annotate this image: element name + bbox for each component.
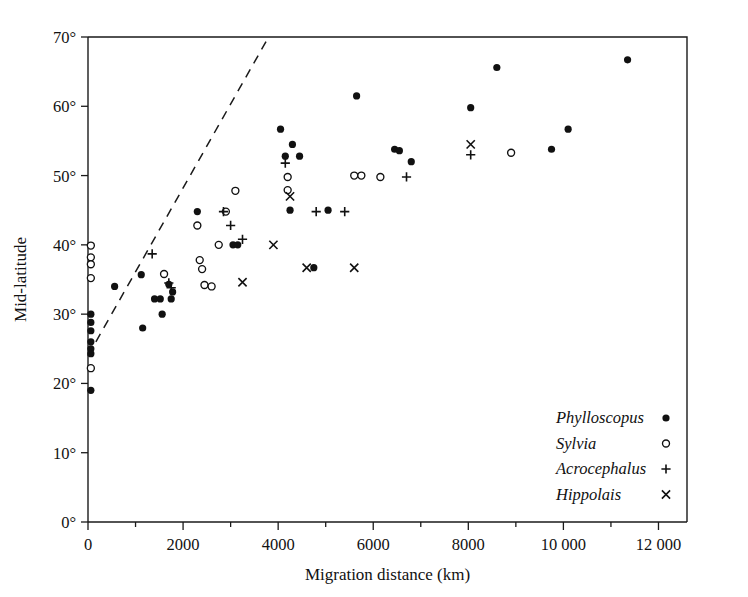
y-tick-label: 60°: [53, 97, 76, 116]
data-point-phylloscopus: [87, 387, 94, 394]
data-point-sylvia: [351, 172, 358, 179]
data-point-phylloscopus: [310, 264, 317, 271]
data-point-hippolais: [269, 241, 277, 249]
data-point-phylloscopus: [467, 104, 474, 111]
plot-frame: [88, 37, 687, 522]
y-tick-label: 70°: [53, 28, 76, 47]
data-point-sylvia: [215, 241, 222, 248]
data-point-phylloscopus: [159, 311, 166, 318]
legend-label-acrocephalus: Acrocephalus: [555, 459, 646, 478]
data-point-sylvia: [87, 365, 94, 372]
filled-circle-icon: [662, 414, 669, 421]
x-tick-label: 10 000: [541, 535, 586, 554]
page-bleed-artifact: [250, 0, 670, 9]
upper-bound-trend: [88, 37, 269, 356]
plot-canvas: 0°10°20°30°40°50°60°70°02000400060008000…: [0, 0, 748, 597]
data-point-sylvia: [508, 149, 515, 156]
y-tick-label: 30°: [53, 305, 76, 324]
x-tick-label: 6000: [357, 535, 390, 554]
y-tick-label: 20°: [53, 374, 76, 393]
data-point-sylvia: [87, 242, 94, 249]
data-point-sylvia: [208, 283, 215, 290]
y-tick-label: 50°: [53, 167, 76, 186]
y-axis-label: Mid-latitude: [11, 237, 30, 322]
data-point-sylvia: [161, 270, 168, 277]
data-point-phylloscopus: [87, 350, 94, 357]
data-point-sylvia: [284, 173, 291, 180]
x-tick-label: 8000: [452, 535, 485, 554]
cross-icon: [662, 490, 670, 498]
y-tick-label: 0°: [61, 513, 76, 532]
data-point-phylloscopus: [548, 146, 555, 153]
data-point-phylloscopus: [286, 207, 293, 214]
data-point-phylloscopus: [87, 319, 94, 326]
data-point-acrocephalus: [312, 207, 321, 216]
data-point-phylloscopus: [157, 295, 164, 302]
data-point-phylloscopus: [87, 327, 94, 334]
data-point-acrocephalus: [164, 278, 173, 287]
data-point-phylloscopus: [168, 295, 175, 302]
data-point-phylloscopus: [87, 311, 94, 318]
data-point-phylloscopus: [139, 324, 146, 331]
data-point-phylloscopus: [353, 92, 360, 99]
data-point-sylvia: [194, 222, 201, 229]
data-point-hippolais: [238, 278, 246, 286]
data-point-acrocephalus: [340, 207, 349, 216]
data-point-phylloscopus: [296, 153, 303, 160]
data-point-acrocephalus: [226, 221, 235, 230]
scatter-plot-figure: 0°10°20°30°40°50°60°70°02000400060008000…: [0, 0, 748, 597]
data-point-phylloscopus: [396, 147, 403, 154]
y-tick-label: 40°: [53, 236, 76, 255]
data-point-hippolais: [303, 264, 311, 272]
data-point-phylloscopus: [277, 126, 284, 133]
data-point-sylvia: [377, 173, 384, 180]
data-point-acrocephalus: [402, 172, 411, 181]
open-circle-icon: [663, 440, 670, 447]
plus-icon: [661, 464, 670, 473]
data-point-hippolais: [467, 140, 475, 148]
y-tick-label: 10°: [53, 444, 76, 463]
legend-label-hippolais: Hippolais: [555, 485, 621, 504]
data-point-acrocephalus: [281, 159, 290, 168]
data-point-phylloscopus: [138, 271, 145, 278]
data-point-phylloscopus: [234, 241, 241, 248]
x-axis-label: Migration distance (km): [305, 565, 470, 584]
data-point-phylloscopus: [87, 338, 94, 345]
data-point-sylvia: [87, 275, 94, 282]
data-point-sylvia: [199, 266, 206, 273]
data-point-sylvia: [87, 261, 94, 268]
data-point-acrocephalus: [466, 150, 475, 159]
data-point-phylloscopus: [289, 141, 296, 148]
x-tick-label: 2000: [167, 535, 200, 554]
data-point-sylvia: [201, 282, 208, 289]
data-point-sylvia: [284, 187, 291, 194]
x-tick-label: 0: [84, 535, 92, 554]
data-point-acrocephalus: [148, 249, 157, 258]
data-point-phylloscopus: [111, 283, 118, 290]
data-point-phylloscopus: [624, 56, 631, 63]
x-tick-label: 12 000: [636, 535, 681, 554]
x-tick-label: 4000: [262, 535, 295, 554]
data-point-sylvia: [232, 187, 239, 194]
data-point-phylloscopus: [324, 207, 331, 214]
data-point-phylloscopus: [194, 208, 201, 215]
legend-label-sylvia: Sylvia: [556, 434, 596, 453]
data-point-phylloscopus: [493, 64, 500, 71]
data-point-sylvia: [358, 172, 365, 179]
data-point-phylloscopus: [169, 288, 176, 295]
data-point-phylloscopus: [408, 158, 415, 165]
legend-label-phylloscopus: Phylloscopus: [555, 408, 644, 427]
data-point-sylvia: [196, 257, 203, 264]
data-point-phylloscopus: [565, 126, 572, 133]
data-point-hippolais: [350, 264, 358, 272]
data-point-sylvia: [87, 254, 94, 261]
